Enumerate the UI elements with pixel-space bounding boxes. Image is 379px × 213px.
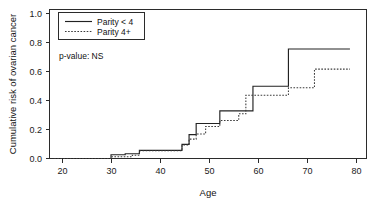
x-tick-label: 30	[106, 166, 116, 176]
x-tick-label: 20	[57, 166, 67, 176]
y-tick-label: 0.0	[29, 154, 42, 164]
pvalue-annotation: p-value: NS	[59, 51, 104, 61]
y-tick-group-3: 0.6	[29, 67, 49, 77]
y-tick-group-1: 0.2	[29, 125, 49, 135]
x-tick-label: 80	[351, 166, 361, 176]
y-tick-label: 0.6	[29, 67, 42, 77]
x-tick-group-6: 80	[351, 159, 361, 177]
y-tick-group-0: 0.0	[29, 154, 49, 164]
x-tick-group-0: 20	[57, 159, 67, 177]
legend-label: Parity 4+	[97, 27, 131, 37]
legend: Parity < 4 Parity 4+	[59, 13, 145, 40]
y-tick-group-5: 1.0	[29, 9, 49, 19]
y-tick-label: 0.8	[29, 38, 42, 48]
x-axis: 20 30 40 50 60 70	[57, 159, 361, 177]
x-tick-label: 70	[302, 166, 312, 176]
x-tick-label: 40	[155, 166, 165, 176]
y-tick-label: 0.4	[29, 96, 42, 106]
x-tick-group-5: 70	[302, 159, 312, 177]
legend-label: Parity < 4	[97, 17, 133, 27]
y-tick-group-2: 0.4	[29, 96, 49, 106]
x-tick-label: 60	[253, 166, 263, 176]
x-tick-label: 50	[204, 166, 214, 176]
ovarian-cancer-risk-step-chart: 0.0 0.2 0.4 0.6 0.8 1.0	[0, 0, 379, 213]
x-tick-group-3: 50	[204, 159, 214, 177]
x-axis-title: Age	[200, 187, 217, 198]
y-tick-group-4: 0.8	[29, 38, 49, 48]
x-tick-group-1: 30	[106, 159, 116, 177]
y-axis-title: Cumulative risk of ovarian cancer	[7, 14, 18, 154]
x-tick-group-4: 60	[253, 159, 263, 177]
y-tick-label: 0.2	[29, 125, 42, 135]
chart-figure: 0.0 0.2 0.4 0.6 0.8 1.0	[0, 0, 379, 213]
y-tick-label: 1.0	[29, 9, 42, 19]
y-axis: 0.0 0.2 0.4 0.6 0.8 1.0	[29, 9, 49, 164]
x-tick-group-2: 40	[155, 159, 165, 177]
